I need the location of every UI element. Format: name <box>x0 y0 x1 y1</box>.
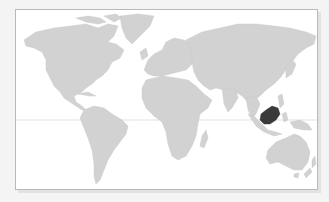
madagascar <box>200 130 208 148</box>
north-america <box>24 24 124 110</box>
philippines <box>278 94 284 108</box>
tasmania <box>294 173 299 178</box>
africa <box>142 76 212 160</box>
india <box>222 88 238 112</box>
greenland <box>120 14 154 44</box>
world-map <box>16 10 317 189</box>
world-map-frame: Borneo (Malaysia) <box>15 9 318 190</box>
south-america <box>80 106 128 184</box>
indonesia-east <box>282 112 312 130</box>
australia <box>266 134 310 170</box>
uk <box>140 48 148 60</box>
arctic-islands <box>76 14 122 24</box>
asia <box>186 24 316 102</box>
highlighted-borneo <box>260 106 280 124</box>
southeast-asia <box>246 96 260 118</box>
